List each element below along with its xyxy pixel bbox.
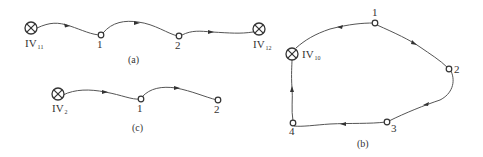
node-b-1 bbox=[372, 20, 378, 26]
path-c-seg2 bbox=[142, 87, 217, 100]
caption-a: (a) bbox=[128, 54, 139, 66]
label-b-2: 2 bbox=[454, 63, 460, 75]
label-iv12: IV12 bbox=[253, 38, 272, 51]
path-a-seg1 bbox=[37, 23, 101, 35]
label-c-2: 2 bbox=[214, 103, 220, 115]
label-a-2: 2 bbox=[175, 39, 181, 51]
arrow-icon bbox=[208, 30, 214, 34]
diagram-a: IV11 1 2 IV12 (a) bbox=[25, 21, 272, 66]
arrow-icon bbox=[102, 90, 108, 94]
path-c-seg1 bbox=[63, 90, 140, 99]
node-c-2 bbox=[215, 97, 221, 103]
arrow-icon bbox=[290, 86, 294, 92]
arrow-icon bbox=[411, 40, 417, 45]
path-b-seg3 bbox=[294, 122, 386, 126]
arrow-icon bbox=[337, 25, 343, 29]
node-b-3 bbox=[384, 119, 390, 125]
path-b-seg0 bbox=[296, 23, 374, 48]
source-node-iv10 bbox=[286, 48, 298, 60]
diagram-c: IV2 1 2 (c) bbox=[52, 86, 221, 134]
source-node-iv11 bbox=[25, 22, 37, 34]
caption-c: (c) bbox=[132, 122, 143, 134]
arrow-icon bbox=[340, 122, 346, 126]
path-b-seg2 bbox=[389, 71, 453, 121]
node-c-1 bbox=[138, 96, 144, 102]
label-iv2: IV2 bbox=[52, 102, 68, 115]
label-iv11: IV11 bbox=[25, 37, 43, 50]
label-c-1: 1 bbox=[137, 102, 143, 114]
node-a-1 bbox=[98, 32, 104, 38]
label-b-1: 1 bbox=[372, 6, 378, 18]
source-node-iv2 bbox=[52, 88, 64, 100]
diagram-b: IV10 1 2 3 4 (b) bbox=[286, 6, 460, 150]
label-a-1: 1 bbox=[97, 38, 103, 50]
path-b-seg1 bbox=[377, 25, 448, 68]
label-b-4: 4 bbox=[289, 125, 295, 137]
sink-node-iv12 bbox=[253, 23, 265, 35]
node-a-2 bbox=[176, 33, 182, 39]
caption-b: (b) bbox=[357, 138, 369, 150]
label-b-3: 3 bbox=[391, 122, 397, 134]
path-a-seg2 bbox=[103, 21, 178, 36]
arrow-icon bbox=[174, 86, 180, 90]
path-a-seg3 bbox=[182, 31, 253, 35]
label-iv10: IV10 bbox=[302, 48, 321, 61]
node-b-2 bbox=[446, 66, 452, 72]
